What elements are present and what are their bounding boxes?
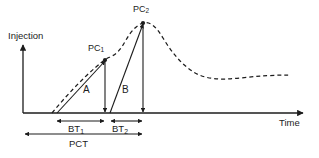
pc1-label-text: PC [88, 43, 101, 53]
pc2-label: PC2 [133, 5, 149, 15]
bt1-label: BT1 [68, 124, 84, 135]
pc1-label: PC1 [88, 44, 104, 54]
segment-a-line [57, 61, 105, 113]
diagram-canvas [0, 0, 319, 158]
y-axis-label: Injection [8, 31, 43, 41]
pc2-label-text: PC [133, 4, 146, 14]
pc2-point-marker [141, 21, 145, 25]
pc1-point-marker [103, 58, 107, 62]
pc1-label-subscript: 1 [101, 46, 105, 53]
pct-label: PCT [69, 139, 88, 149]
x-axis-label: Time [279, 118, 300, 128]
bt1-label-subscript: 1 [80, 128, 84, 135]
bt2-label-subscript: 2 [124, 128, 128, 135]
segment-b-label: B [122, 85, 129, 95]
segment-a-label: A [83, 85, 90, 95]
bt1-label-text: BT [68, 123, 80, 134]
segment-b-line [110, 24, 143, 113]
bt2-label: BT2 [112, 124, 128, 135]
figure-root: Injection Time PC1 PC2 A B BT1 BT2 PCT [0, 0, 319, 158]
response-curve [52, 23, 290, 113]
pc2-label-subscript: 2 [146, 7, 150, 14]
bt2-label-text: BT [112, 123, 124, 134]
